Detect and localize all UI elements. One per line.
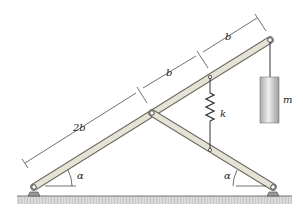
short-bar	[152, 113, 273, 187]
right-support	[267, 192, 279, 196]
angle-right-label: α	[224, 170, 231, 181]
linkage-diagram: k m 2b b b α α	[0, 0, 303, 214]
spring-label: k	[220, 108, 226, 119]
mass-label: m	[283, 94, 292, 105]
dimension-b-top-label: b	[225, 31, 231, 42]
ground	[17, 196, 292, 204]
angle-left-label: α	[77, 170, 84, 181]
spring	[206, 75, 214, 151]
dimension-2b-label: 2b	[72, 122, 86, 133]
dimension-b-middle-label: b	[166, 67, 172, 78]
hanging-mass	[260, 42, 279, 123]
left-support	[28, 192, 40, 196]
